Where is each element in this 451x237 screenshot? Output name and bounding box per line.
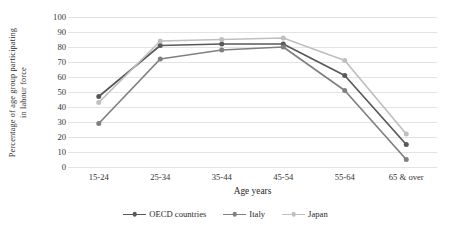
y-tick-label: 90 bbox=[40, 28, 66, 37]
data-point-marker bbox=[219, 37, 224, 42]
legend-marker-icon bbox=[123, 211, 146, 218]
y-tick-label: 20 bbox=[40, 133, 66, 142]
series-line bbox=[99, 47, 407, 160]
x-tick-label: 45-54 bbox=[273, 172, 293, 182]
legend-label: OECD countries bbox=[149, 209, 206, 219]
data-point-marker bbox=[96, 100, 101, 105]
data-point-marker bbox=[404, 132, 409, 137]
legend-item[interactable]: Japan bbox=[282, 209, 328, 219]
x-tick-label: 55-64 bbox=[335, 172, 355, 182]
data-point-marker bbox=[219, 48, 224, 53]
data-point-marker bbox=[404, 142, 409, 147]
x-tick-label: 65 & over bbox=[389, 172, 424, 182]
data-point-marker bbox=[281, 45, 286, 50]
data-point-marker bbox=[342, 88, 347, 93]
series-line bbox=[99, 44, 407, 145]
data-point-marker bbox=[158, 39, 163, 44]
data-point-marker bbox=[158, 57, 163, 62]
legend-marker-icon bbox=[223, 211, 246, 218]
y-tick-label: 0 bbox=[40, 163, 66, 172]
series-lines bbox=[68, 17, 437, 167]
legend-marker-icon bbox=[282, 211, 305, 218]
x-tick-label: 15-24 bbox=[89, 172, 109, 182]
y-tick-label: 30 bbox=[40, 118, 66, 127]
data-point-marker bbox=[96, 121, 101, 126]
y-tick-label: 60 bbox=[40, 73, 66, 82]
y-axis-title-line2: in labour force bbox=[19, 28, 30, 157]
x-axis-title: Age years bbox=[68, 186, 437, 196]
data-point-marker bbox=[342, 73, 347, 78]
legend-label: Italy bbox=[249, 209, 265, 219]
chart-legend: OECD countriesItalyJapan bbox=[0, 209, 451, 219]
data-point-marker bbox=[404, 157, 409, 162]
data-point-marker bbox=[96, 94, 101, 99]
data-point-marker bbox=[342, 58, 347, 63]
y-tick-label: 10 bbox=[40, 148, 66, 157]
y-tick-label: 80 bbox=[40, 43, 66, 52]
line-chart: Percentage of age group participating in… bbox=[0, 0, 451, 237]
legend-item[interactable]: OECD countries bbox=[123, 209, 206, 219]
x-axis-ticks: 15-2425-3435-4445-5455-6465 & over bbox=[68, 172, 437, 186]
y-axis-title: Percentage of age group participating in… bbox=[0, 0, 38, 185]
x-tick-label: 25-34 bbox=[150, 172, 170, 182]
y-axis-ticks: 1009080706050403020100 bbox=[38, 0, 66, 185]
y-tick-label: 40 bbox=[40, 103, 66, 112]
legend-item[interactable]: Italy bbox=[223, 209, 265, 219]
y-tick-label: 70 bbox=[40, 58, 66, 67]
gridline bbox=[68, 167, 437, 168]
y-tick-label: 50 bbox=[40, 88, 66, 97]
y-tick-label: 100 bbox=[40, 13, 66, 22]
legend-label: Japan bbox=[308, 209, 328, 219]
data-point-marker bbox=[219, 42, 224, 47]
series-line bbox=[99, 38, 407, 134]
plot-area bbox=[68, 17, 437, 167]
data-point-marker bbox=[281, 36, 286, 41]
x-tick-label: 35-44 bbox=[212, 172, 232, 182]
y-axis-title-line1: Percentage of age group participating bbox=[9, 28, 20, 157]
